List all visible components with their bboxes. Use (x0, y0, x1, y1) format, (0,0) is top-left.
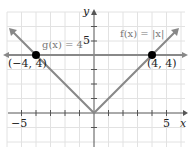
y-axis-label: y (83, 6, 89, 17)
x-axis-label: x (180, 118, 186, 129)
x-axis-arrow-icon (183, 110, 188, 116)
point-label-neg4-4: (−4, 4) (8, 58, 47, 69)
f-label: f(x) = |x| (120, 29, 164, 39)
g-label: g(x) = 4 (42, 40, 83, 50)
x-tick-5: 5 (163, 118, 170, 129)
x-tick-neg5: −5 (11, 118, 27, 129)
graph: g(x) = 4 f(x) = |x| (−4, 4) (4, 4) −5 5 … (0, 0, 191, 147)
y-tick-5: 5 (83, 35, 90, 46)
point-label-4-4: (4, 4) (147, 58, 177, 69)
g-arrow-right-icon (182, 52, 188, 58)
